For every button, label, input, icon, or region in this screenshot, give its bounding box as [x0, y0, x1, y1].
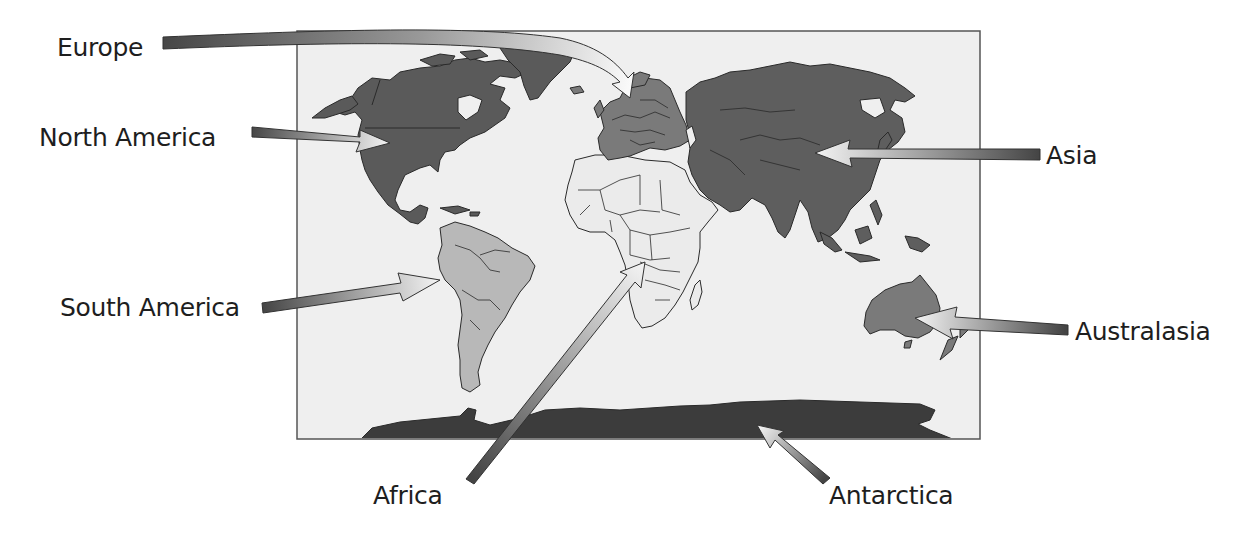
label-europe: Europe: [57, 35, 143, 60]
world-map-diagram: [0, 0, 1247, 535]
label-asia: Asia: [1046, 143, 1097, 168]
label-antarctica: Antarctica: [829, 483, 953, 508]
label-north-america: North America: [39, 125, 216, 150]
label-south-america: South America: [60, 295, 240, 320]
label-africa: Africa: [373, 483, 443, 508]
label-australasia: Australasia: [1075, 319, 1211, 344]
